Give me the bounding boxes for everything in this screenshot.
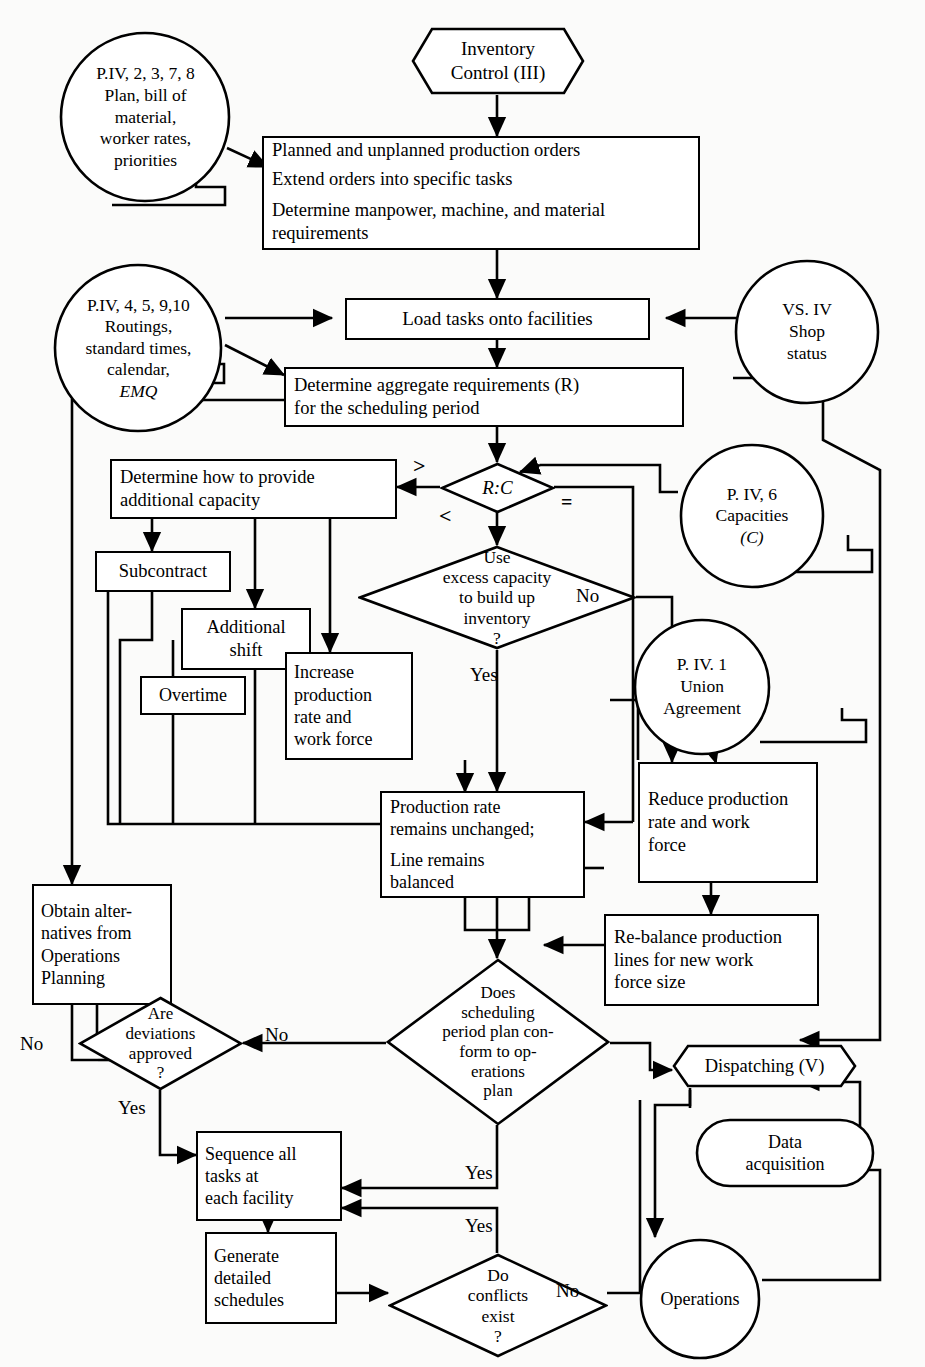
node-determine-aggregate: Determine aggregate requirements (R) for… bbox=[284, 367, 684, 427]
cloud-plan-label: P.IV, 2, 3, 7, 8 Plan, bill of material,… bbox=[96, 63, 194, 171]
orders-line-2: Extend orders into specific tasks bbox=[264, 164, 714, 195]
node-determine-additional-capacity: Determine how to provide additional capa… bbox=[110, 459, 397, 519]
node-cloud-routings: P.IV, 4, 5, 9,10 Routings, standard time… bbox=[52, 262, 225, 435]
cloud-union-label: P. IV. 1 Union Agreement bbox=[663, 654, 741, 719]
obtain-alternatives-label: Obtain alter- natives from Operations Pl… bbox=[34, 900, 184, 989]
edge-label-conflicts-yes: Yes bbox=[465, 1216, 493, 1235]
increase-production-label: Increase production rate and work force bbox=[287, 661, 425, 750]
subcontract-label: Subcontract bbox=[97, 557, 229, 586]
does-scheduling-label: Does scheduling period plan con- form to… bbox=[386, 958, 610, 1126]
node-does-scheduling-conform: Does scheduling period plan con- form to… bbox=[386, 958, 610, 1126]
data-acquisition-label: Data acquisition bbox=[746, 1131, 825, 1176]
load-tasks-label: Load tasks onto facilities bbox=[347, 304, 648, 334]
cloud-routings-line-4: calendar, bbox=[86, 359, 192, 380]
node-are-deviations-approved: Are deviations approved ? bbox=[78, 996, 243, 1091]
node-inventory-control: Inventory Control (III) bbox=[410, 26, 586, 96]
cloud-capacities-line-3: (C) bbox=[716, 527, 789, 548]
inventory-control-label: Inventory Control (III) bbox=[451, 37, 545, 84]
orders-line-3: Determine manpower, machine, and materia… bbox=[264, 195, 714, 249]
node-obtain-alternatives: Obtain alter- natives from Operations Pl… bbox=[32, 884, 172, 1005]
production-unchanged-line-2: remains unchanged; bbox=[382, 818, 599, 848]
operations-label: Operations bbox=[661, 1288, 740, 1310]
overtime-label: Overtime bbox=[142, 681, 244, 709]
production-unchanged-line-4: balanced bbox=[382, 871, 599, 893]
edge-label-rc-greater: > bbox=[413, 455, 426, 477]
node-production-unchanged: Production rate remains unchanged; Line … bbox=[380, 791, 585, 898]
orders-line-1: Planned and unplanned production orders bbox=[264, 137, 714, 164]
edge-label-rc-less: < bbox=[439, 505, 452, 527]
edge-label-excess-yes: Yes bbox=[470, 665, 498, 684]
node-rebalance: Re-balance production lines for new work… bbox=[604, 914, 819, 1006]
rebalance-label: Re-balance production lines for new work… bbox=[606, 926, 833, 995]
cloud-capacities-line-2: Capacities bbox=[716, 505, 789, 526]
production-unchanged-line-1: Production rate bbox=[382, 796, 599, 818]
cloud-routings-line-3: standard times, bbox=[86, 338, 192, 359]
edge-label-deviations-yes: Yes bbox=[118, 1098, 146, 1117]
cloud-routings-line-5: EMQ bbox=[86, 381, 192, 402]
node-cloud-shop-status: VS. IV Shop status bbox=[733, 258, 881, 406]
edge-label-conflicts-no: No bbox=[556, 1281, 579, 1300]
node-sequence-tasks: Sequence all tasks at each facility bbox=[196, 1131, 342, 1221]
edge-label-excess-no: No bbox=[576, 586, 599, 605]
generate-schedules-label: Generate detailed schedules bbox=[207, 1245, 349, 1312]
node-cloud-union: P. IV. 1 Union Agreement bbox=[632, 617, 772, 757]
node-load-tasks: Load tasks onto facilities bbox=[345, 298, 650, 340]
production-unchanged-line-3: Line remains bbox=[382, 849, 599, 871]
node-cloud-capacities: P. IV, 6 Capacities (C) bbox=[678, 442, 826, 590]
node-rc-decision: R:C bbox=[440, 462, 555, 514]
edge-label-deviations-no-right: No bbox=[265, 1025, 288, 1044]
edge-label-rc-equal: = bbox=[561, 492, 572, 512]
cloud-shop-status-label: VS. IV Shop status bbox=[782, 299, 832, 364]
node-dispatching: Dispatching (V) bbox=[672, 1044, 857, 1088]
reduce-production-label: Reduce production rate and work force bbox=[640, 788, 832, 857]
do-conflicts-label: Do conflicts exist ? bbox=[388, 1253, 608, 1358]
node-subcontract: Subcontract bbox=[95, 551, 231, 592]
node-operations: Operations bbox=[638, 1237, 762, 1361]
node-reduce-production: Reduce production rate and work force bbox=[638, 762, 818, 883]
determine-additional-label: Determine how to provide additional capa… bbox=[112, 466, 411, 512]
determine-aggregate-line-2: for the scheduling period bbox=[286, 397, 698, 420]
node-increase-production: Increase production rate and work force bbox=[285, 652, 413, 760]
cloud-routings-line-1: P.IV, 4, 5, 9,10 bbox=[86, 295, 192, 316]
node-data-acquisition: Data acquisition bbox=[695, 1118, 875, 1188]
edge-label-deviations-no-left: No bbox=[20, 1034, 43, 1053]
rc-decision-label: R:C bbox=[440, 462, 555, 514]
edge-label-scheduling-yes: Yes bbox=[465, 1163, 493, 1182]
node-do-conflicts-exist: Do conflicts exist ? bbox=[388, 1253, 608, 1358]
node-cloud-plan: P.IV, 2, 3, 7, 8 Plan, bill of material,… bbox=[58, 30, 233, 205]
dispatching-label: Dispatching (V) bbox=[705, 1055, 825, 1078]
determine-aggregate-line-1: Determine aggregate requirements (R) bbox=[286, 374, 698, 397]
node-orders-box: Planned and unplanned production orders … bbox=[262, 136, 700, 250]
sequence-tasks-label: Sequence all tasks at each facility bbox=[198, 1143, 354, 1210]
cloud-capacities-line-1: P. IV, 6 bbox=[716, 484, 789, 505]
node-overtime: Overtime bbox=[140, 676, 246, 715]
node-generate-schedules: Generate detailed schedules bbox=[205, 1232, 337, 1324]
are-deviations-label: Are deviations approved ? bbox=[78, 996, 243, 1091]
cloud-routings-line-2: Routings, bbox=[86, 316, 192, 337]
flowchart-canvas: Inventory Control (III) P.IV, 2, 3, 7, 8… bbox=[0, 0, 925, 1367]
